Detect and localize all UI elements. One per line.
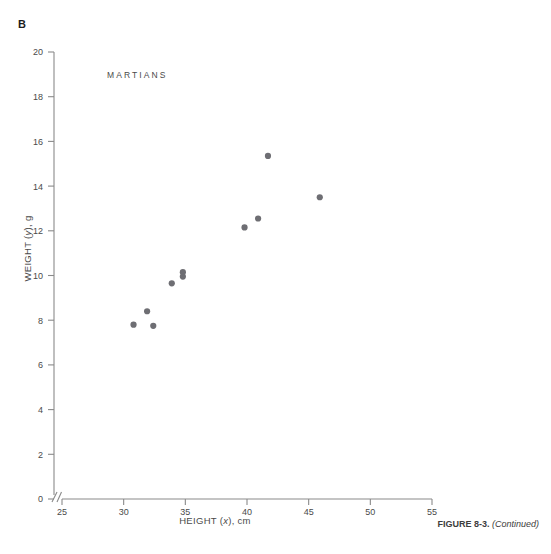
data-point	[241, 224, 247, 230]
figure-caption: FIGURE 8-3. (Continued)	[437, 519, 539, 529]
y-tick-label: 0	[38, 494, 43, 504]
y-tick-label: 6	[38, 360, 43, 370]
y-axis-title-prefix: WEIGHT (	[22, 235, 33, 281]
data-point	[265, 153, 271, 159]
y-tick-label: 10	[33, 271, 43, 281]
y-tick-label: 8	[38, 316, 43, 326]
figure-container: B 0246810121416182025303540455055 MARTIA…	[0, 0, 551, 554]
data-point	[255, 215, 261, 221]
y-tick-label: 14	[33, 182, 43, 192]
y-tick-label: 4	[38, 405, 43, 415]
y-tick-label: 18	[33, 92, 43, 102]
dataset-title: MARTIANS	[107, 70, 168, 80]
data-point	[317, 194, 323, 200]
y-tick-label: 12	[33, 226, 43, 236]
y-axis-variable: y	[22, 230, 33, 235]
x-axis-break-icon	[52, 492, 62, 502]
plot-svg: 0246810121416182025303540455055	[0, 0, 551, 554]
data-point	[150, 323, 156, 329]
y-tick-label: 2	[38, 450, 43, 460]
data-point	[169, 280, 175, 286]
y-axis-title-suffix: ), g	[22, 215, 33, 230]
y-axis-ticks: 02468101214161820	[33, 47, 54, 504]
data-point	[130, 322, 136, 328]
x-axis-title: HEIGHT (x), cm	[0, 515, 430, 526]
figure-caption-number: FIGURE 8-3.	[437, 519, 489, 529]
y-tick-label: 20	[33, 47, 43, 57]
data-point	[180, 274, 186, 280]
figure-caption-note: (Continued)	[492, 519, 539, 529]
y-tick-label: 16	[33, 137, 43, 147]
x-axis-title-prefix: HEIGHT (	[179, 515, 223, 526]
data-points	[130, 153, 322, 329]
data-point	[144, 308, 150, 314]
y-axis-title: WEIGHT (y), g	[22, 189, 33, 309]
scatter-plot: 0246810121416182025303540455055 MARTIANS…	[0, 0, 551, 554]
axes	[54, 52, 432, 499]
x-axis-title-suffix: ), cm	[228, 515, 251, 526]
